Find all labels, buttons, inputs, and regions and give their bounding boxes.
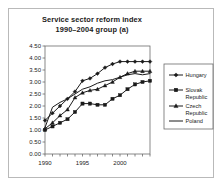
data-point-marker — [66, 118, 69, 121]
y-tick-label: 3.00 — [29, 79, 41, 85]
chart-figure: Service sector reform index 1990–2004 gr… — [8, 8, 214, 178]
y-tick-label: 2.50 — [29, 91, 41, 97]
y-tick-label: 1.00 — [29, 127, 41, 133]
series-line — [45, 74, 150, 128]
legend-label: Republic — [186, 94, 208, 100]
y-tick-label: 2.00 — [29, 103, 41, 109]
y-axis-tick-labels: 0.000.501.001.502.002.503.003.504.004.50 — [29, 43, 41, 157]
legend-label: Czech — [186, 103, 202, 109]
data-point-marker — [51, 125, 54, 128]
legend-label: Poland — [186, 118, 203, 124]
y-tick-label: 1.50 — [29, 115, 41, 121]
legend-swatch-marker — [174, 88, 178, 92]
data-point-marker — [111, 97, 114, 100]
data-point-marker — [148, 60, 152, 64]
data-point-marker — [133, 60, 137, 64]
legend-label: Hungary — [186, 72, 207, 78]
y-tick-label: 3.50 — [29, 67, 41, 73]
data-point-marker — [126, 60, 130, 64]
y-tick-label: 0.50 — [29, 139, 41, 145]
data-point-marker — [88, 102, 91, 105]
y-tick-label: 0.00 — [29, 151, 41, 157]
data-point-marker — [73, 110, 76, 113]
legend-label: Republic — [186, 110, 208, 116]
data-point-marker — [111, 62, 115, 66]
data-point-marker — [81, 102, 84, 105]
data-point-marker — [141, 60, 145, 64]
y-tick-label: 4.50 — [29, 43, 41, 49]
data-point-marker — [103, 103, 106, 106]
series-layer — [43, 60, 152, 132]
series-poland — [45, 74, 150, 128]
series-line — [45, 71, 150, 129]
data-point-marker — [141, 80, 144, 83]
y-tick-label: 4.00 — [29, 55, 41, 61]
data-point-marker — [118, 94, 121, 97]
line-chart: 0.000.501.001.502.002.503.003.504.004.50… — [9, 9, 215, 179]
series-hungary — [43, 60, 152, 123]
data-point-marker — [96, 103, 99, 106]
x-tick-label: 1990 — [38, 160, 52, 166]
data-point-marker — [133, 83, 136, 86]
x-axis-tick-labels: 199019952000 — [38, 160, 127, 166]
data-point-marker — [126, 88, 129, 91]
legend-label: Slovak — [186, 87, 203, 93]
plot-area-wrapper: 0.000.501.001.502.002.503.003.504.004.50… — [9, 9, 215, 179]
data-point-marker — [58, 121, 61, 124]
data-point-marker — [148, 79, 151, 82]
x-tick-label: 1995 — [76, 160, 90, 166]
data-point-marker — [118, 60, 122, 64]
x-tick-label: 2000 — [113, 160, 127, 166]
